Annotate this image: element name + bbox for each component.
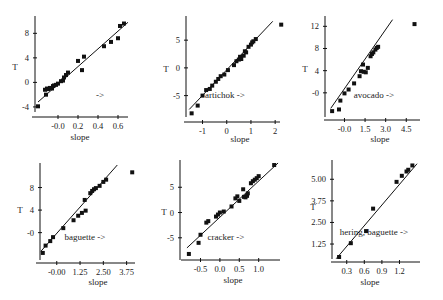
x-tick-label: 0.0 <box>215 264 226 274</box>
fit-line <box>336 164 417 259</box>
data-point <box>342 91 346 95</box>
data-point <box>237 199 241 203</box>
panel-annotation: hering, baguette -> <box>340 227 408 237</box>
data-point <box>82 55 86 59</box>
data-point <box>187 252 191 256</box>
data-point <box>254 37 258 41</box>
x-tick-label: -0.0 <box>338 124 351 134</box>
y-tick-label: 0 <box>176 63 180 73</box>
x-axis-label: slope <box>371 134 390 144</box>
panel-annotation: artichok -> <box>205 90 245 100</box>
data-point <box>364 70 368 74</box>
data-point <box>104 178 108 182</box>
data-point <box>98 184 102 188</box>
y-tick-label: 5 <box>176 35 180 45</box>
y-tick-label: -0 <box>312 88 319 98</box>
data-point <box>197 241 201 245</box>
y-tick-label: 0 <box>170 208 174 218</box>
data-point <box>118 24 122 28</box>
x-tick-label: 3.0 <box>380 124 391 134</box>
data-point <box>206 219 210 223</box>
plot-panel-baguette: -048-0.001.252.503.75Tslopebaguette -> <box>17 163 135 287</box>
y-axis-label: T <box>163 64 169 74</box>
data-point <box>219 74 223 78</box>
qq-plot-grid: -4048-0.00.20.40.6Tslope-> -505-1012Tslo… <box>0 0 443 300</box>
y-tick-label: -0 <box>27 228 34 238</box>
panel-annotation: baguette -> <box>65 232 106 242</box>
x-tick-label: 1.25 <box>73 267 88 277</box>
data-point <box>51 235 55 239</box>
x-axis-label: slope <box>89 277 108 287</box>
data-point <box>406 168 410 172</box>
data-point <box>80 68 84 72</box>
data-point <box>330 109 334 113</box>
x-tick-label: 4.5 <box>401 124 412 134</box>
y-tick-label: 4 <box>25 53 30 63</box>
data-point <box>395 180 399 184</box>
data-point <box>222 210 226 214</box>
panel-annotation: -> <box>96 90 104 100</box>
x-tick-label: 0.2 <box>73 121 84 131</box>
data-point <box>337 107 341 111</box>
y-tick-label: 12 <box>311 21 320 31</box>
y-tick-label: -4 <box>22 102 30 112</box>
data-point <box>44 244 48 248</box>
data-point <box>257 174 261 178</box>
x-tick-label: 0.6 <box>113 121 124 131</box>
data-point <box>272 163 276 167</box>
x-tick-label: 0.5 <box>234 264 245 274</box>
data-point <box>48 239 52 243</box>
data-point <box>349 241 353 245</box>
plot-panel-avocado: -04812-0.01.53.04.5Tslopeavocado -> <box>302 16 420 144</box>
y-tick-label: 1.25 <box>311 239 326 249</box>
y-tick-label: 8 <box>315 43 319 53</box>
data-point <box>400 174 404 178</box>
plot-panel-artichok: -505-1012Tslopeartichok -> <box>163 16 283 144</box>
data-point <box>41 251 45 255</box>
y-tick-label: 8 <box>25 28 29 38</box>
y-tick-label: -5 <box>173 91 180 101</box>
x-tick-label: 2.50 <box>96 267 111 277</box>
data-point <box>116 36 120 40</box>
data-point <box>84 209 88 213</box>
y-axis-label: T <box>302 64 308 74</box>
data-point <box>130 170 134 174</box>
y-tick-label: 5.00 <box>311 174 326 184</box>
x-tick-label: 0.9 <box>377 266 388 276</box>
data-point <box>201 94 205 98</box>
y-tick-label: 2.50 <box>311 217 326 227</box>
data-point <box>44 93 48 97</box>
data-point <box>279 23 283 27</box>
x-axis-label: slope <box>231 134 250 144</box>
data-point <box>72 218 76 222</box>
data-point <box>376 45 380 49</box>
data-point <box>337 255 341 259</box>
x-tick-label: 1.0 <box>253 264 264 274</box>
data-point <box>102 44 106 48</box>
data-point <box>196 104 200 108</box>
data-point <box>347 88 351 92</box>
data-point <box>232 63 236 67</box>
data-point <box>94 186 98 190</box>
y-axis-label: T <box>161 207 167 217</box>
x-tick-label: 0.3 <box>341 266 352 276</box>
x-tick-label: 3.75 <box>119 267 134 277</box>
y-axis-label: T <box>310 202 316 212</box>
data-point <box>36 104 40 108</box>
data-point <box>361 63 365 67</box>
plot-panel-1: -4048-0.00.20.40.6Tslope-> <box>12 16 128 142</box>
y-tick-label: 4 <box>315 66 320 76</box>
x-axis-label: slope <box>224 275 243 285</box>
data-point <box>338 99 342 103</box>
x-axis-label: slope <box>71 132 90 142</box>
x-tick-label: -0.5 <box>194 264 207 274</box>
data-point <box>241 187 245 191</box>
x-tick-label: 0 <box>225 126 229 136</box>
y-axis-label: T <box>12 62 18 72</box>
y-tick-label: 0 <box>25 77 29 87</box>
y-tick-label: -5 <box>167 233 174 243</box>
x-axis-label: slope <box>361 277 380 287</box>
y-tick-label: 4 <box>30 205 35 215</box>
data-point <box>410 163 414 167</box>
x-tick-label: -0.00 <box>48 267 66 277</box>
